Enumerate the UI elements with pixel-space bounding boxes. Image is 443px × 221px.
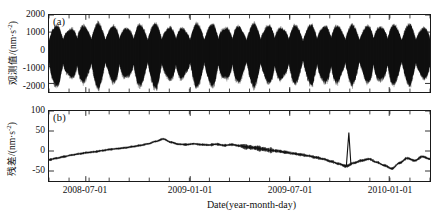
- residual-series: [49, 111, 430, 181]
- panel-b-y-tick-1: 50: [1, 125, 45, 135]
- x-tick-1: 2009-01-01: [168, 185, 212, 195]
- panel-b-y-ticks: 100 50 0 -50: [0, 0, 45, 221]
- panel-b-y-tick-2: 0: [1, 145, 45, 155]
- x-tick-0: 2008-07-01: [63, 185, 107, 195]
- panel-b-tag: (b): [53, 112, 66, 123]
- panel-b-y-tick-0: 100: [1, 105, 45, 115]
- x-tick-3: 2010-01-01: [368, 185, 412, 195]
- x-axis-title: Date(year-month-day): [0, 199, 443, 210]
- figure-root: (a) 观测值/(nm·s-2) 2000 1000 0 -1000 -2000…: [0, 0, 443, 221]
- observed-gravity-series: [49, 15, 430, 92]
- panel-b-y-tick-3: -50: [1, 165, 45, 175]
- panel-a-plot-area: [48, 14, 431, 93]
- panel-b-plot-area: [48, 110, 431, 182]
- x-tick-2: 2009-07-01: [268, 185, 312, 195]
- panel-a-tag: (a): [53, 16, 65, 27]
